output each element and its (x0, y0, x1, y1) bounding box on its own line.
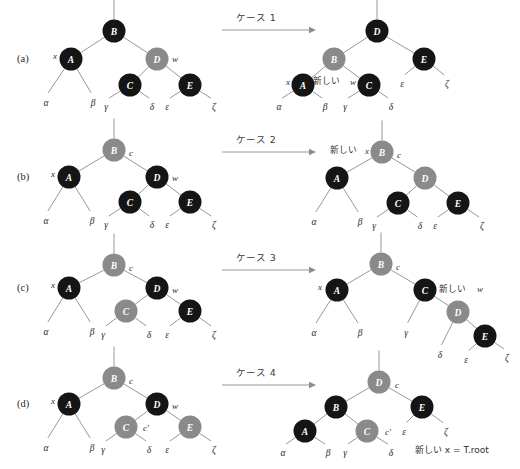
row-d-left-leaf-β: β (89, 443, 95, 453)
row-c-left-leaf-edge-δ (135, 318, 146, 326)
row-c-left-edge-B-A (79, 270, 104, 283)
row-d-right-node-label-A: A (301, 427, 308, 437)
footnote-new-x-root: 新しい x = T.root (415, 443, 489, 456)
row-c-left-leaf-edge-ζ (199, 318, 211, 326)
row-a-left-edge-B-D (124, 37, 148, 52)
row-b-left-node-sidelabel-A: x (50, 169, 55, 179)
row-b-right-tree: BcADCEαβγδεζ (312, 121, 486, 233)
row-d-left-leaf-δ: δ (147, 445, 152, 455)
row-d-left-leaf-ζ: ζ (212, 445, 217, 456)
row-b-left-node-label-D: D (153, 173, 161, 183)
row-b-right-node-label-A: A (333, 174, 340, 184)
row-b-transform-arrow (222, 149, 316, 156)
row-a-right-leaf-δ: δ (389, 102, 394, 112)
row-b-arrow-head (309, 149, 316, 156)
row-a-right-leaf-edge-α (282, 91, 293, 98)
row-a-right-leaf-edge-γ (348, 91, 359, 98)
row-a-left-node-label-A: A (67, 55, 74, 65)
row-d-left-leaf-edge-δ (135, 434, 146, 441)
row-d-left-node-sidelabel-B: c (129, 376, 133, 386)
row-d-left-leaf-γ: γ (101, 445, 105, 455)
row-c-left-leaf-ζ: ζ (212, 330, 217, 341)
row-a-left-leaf-β: β (90, 98, 96, 108)
row-a-right-tree: DBEAxCαβγδεζ (277, 0, 451, 112)
row-a-left-leaf-α: α (44, 98, 50, 108)
row-d-left-edge-D-C (135, 411, 148, 420)
row-d-right-leaf-edge-ζ (431, 414, 443, 423)
row-c-left-leaf-edge-β (75, 298, 90, 322)
row-c-left-edge-D-E (166, 295, 180, 305)
rb-tree-cases-figure: BAxDwCEαβγδεζDBEAxCαβγδεζBcAxDwCEαβγδεζB… (0, 0, 520, 469)
row-b-left-leaf-ε: ε (165, 220, 169, 230)
row-b-right-node-label-D: D (421, 174, 429, 184)
row-d-left-node-label-D: D (153, 400, 161, 410)
row-b-left-edge-B-D (124, 156, 148, 171)
row-a-transform-arrow (222, 27, 316, 34)
row-c-left-node-sidelabel-D: w (172, 285, 178, 295)
row-a-right-leaf-edge-ε (405, 66, 415, 75)
row-d-right-node-label-B: B (332, 403, 339, 413)
row-c-right-node-label-A: A (333, 286, 340, 296)
row-d-right-edge-D-B (346, 388, 369, 401)
row-b-right-node-sidelabel-B: c (397, 150, 401, 160)
row-d-left-edge-B-D (124, 384, 147, 398)
row-c-transform-arrow (222, 267, 316, 274)
row-c-right-node-sidelabel-B: c (396, 262, 400, 272)
row-a-right-edge-D-E (387, 37, 414, 53)
row-c-right-node-label-B: B (377, 260, 384, 270)
row-a-left-leaf-γ: γ (104, 102, 108, 112)
row-d-transform-arrow (222, 382, 316, 389)
row-c-right-edge-D-E (467, 320, 477, 329)
row-b-left-leaf-edge-δ (139, 209, 149, 216)
case-label-2: ケース 2 (236, 132, 276, 146)
row-a-left-node-sidelabel-D: w (172, 54, 178, 64)
row-a-right-node-label-E: E (420, 55, 427, 65)
rb-tree-canvas: BAxDwCEαβγδεζDBEAxCαβγδεζBcAxDwCEαβγδεζB… (0, 0, 520, 469)
row-d-left-leaf-ε: ε (165, 445, 169, 455)
row-b-left-leaf-ζ: ζ (212, 220, 217, 231)
row-c-right-leaf-γ: γ (404, 328, 408, 338)
row-c-right-leaf-edge-ζ (495, 342, 505, 349)
row-d-right-node-label-C: C (364, 427, 371, 437)
row-b-right-leaf-γ: γ (372, 221, 376, 231)
row-d-right-leaf-edge-δ (377, 437, 388, 444)
row-a-right-node-sidelabel-A: x (285, 77, 290, 87)
row-d-left-leaf-edge-γ (106, 434, 117, 441)
row-a-left-leaf-δ: δ (150, 102, 155, 112)
row-a-right-leaf-edge-δ (379, 91, 389, 98)
row-b-right-leaf-ζ: ζ (480, 221, 485, 232)
row-b-left-leaf-edge-ε (170, 209, 181, 216)
row-c-left-leaf-edge-ε (170, 318, 181, 326)
row-b-left-leaf-α: α (44, 216, 50, 226)
row-a-left-tree: BAxDwCEαβγδεζ (44, 0, 218, 113)
row-d-left-node-label-E: E (186, 423, 193, 433)
row-a-left-node-label-B: B (110, 27, 117, 37)
row-a-arrow-head (309, 27, 316, 34)
row-b-right-edge-D-E (434, 185, 449, 196)
row-c-right-leaf-α: α (312, 328, 318, 338)
row-b-left-leaf-edge-α (48, 187, 63, 211)
row-a-right-node-label-A: A (299, 81, 306, 91)
row-b-left-leaf-edge-β (75, 187, 90, 211)
row-c-left-leaf-ε: ε (165, 330, 169, 340)
row-c-right-new-marker-text: 新しい (439, 282, 466, 294)
row-a-right-leaf-γ: γ (343, 102, 347, 112)
row-c-right-edge-B-C (391, 270, 415, 284)
row-b-left-leaf-edge-γ (109, 208, 121, 216)
row-a-left-leaf-edge-ζ (200, 91, 211, 98)
row-a-left-edge-B-A (81, 37, 105, 52)
row-c-right-leaf-β: β (357, 328, 363, 338)
row-c-right-node-label-D: D (454, 308, 462, 318)
row-a-right-node-label-B: B (330, 55, 337, 65)
row-c-right-leaf-ζ: ζ (505, 353, 510, 364)
row-a-left-leaf-ε: ε (165, 102, 169, 112)
row-d-right-node-label-D: D (375, 378, 383, 388)
row-c-right-leaf-ε: ε (464, 355, 468, 365)
row-a-right-leaf-α: α (277, 102, 283, 112)
case-label-1: ケース 1 (236, 10, 276, 24)
row-b-left-node-label-C: C (127, 198, 134, 208)
row-d-left-leaf-edge-β (75, 414, 90, 438)
row-d-right-node-sidelabel-C: c′ (385, 427, 392, 437)
row-b-right-new-marker-var: x (365, 146, 369, 156)
row-b-left-edge-D-C (138, 185, 148, 194)
